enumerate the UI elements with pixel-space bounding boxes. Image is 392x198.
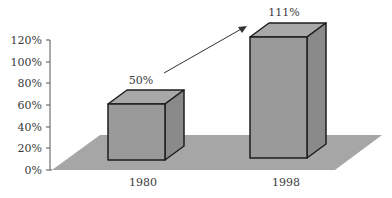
bar-1998 bbox=[250, 23, 326, 158]
growth-arrow-icon bbox=[164, 26, 247, 73]
y-tick-label: 20% bbox=[18, 142, 42, 155]
y-tick-labels: 120% 100% 80% 60% 40% 20% 0% bbox=[11, 34, 42, 177]
bar-side bbox=[307, 23, 326, 158]
x-category-label: 1980 bbox=[129, 176, 157, 189]
y-tick-label: 40% bbox=[18, 121, 42, 134]
bar-1980 bbox=[108, 90, 184, 160]
y-tick-label: 120% bbox=[11, 34, 42, 47]
bar-front bbox=[108, 104, 165, 160]
bar-front bbox=[250, 37, 307, 158]
floor-plane bbox=[52, 135, 382, 170]
y-axis bbox=[46, 40, 52, 170]
data-label-1998: 111% bbox=[268, 6, 299, 19]
data-label-1980: 50% bbox=[129, 74, 153, 87]
y-tick-label: 0% bbox=[25, 164, 42, 177]
y-tick-label: 60% bbox=[18, 99, 42, 112]
x-category-label: 1998 bbox=[272, 176, 300, 189]
y-tick-label: 100% bbox=[11, 56, 42, 69]
chart: 120% 100% 80% 60% 40% 20% 0% 50% 111% 19… bbox=[0, 0, 392, 198]
y-tick-label: 80% bbox=[18, 77, 42, 90]
